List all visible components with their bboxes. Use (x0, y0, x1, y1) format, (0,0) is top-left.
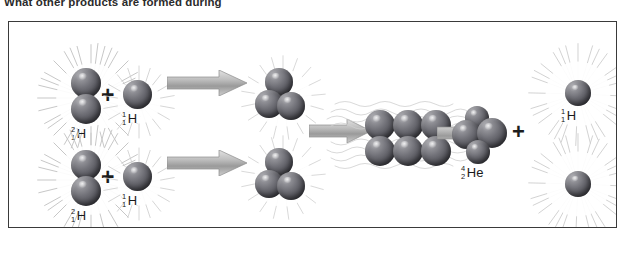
diagram-stage: 2 1 H + (9, 22, 616, 227)
isotope-label-deuterium-top: 2 1 H (71, 126, 86, 141)
nucleon-deuterium-top-b (71, 94, 101, 124)
element-symbol: H (128, 112, 138, 125)
plus-sign-bottom: + (101, 166, 114, 189)
atomic-number: 1 (122, 119, 126, 127)
element-symbol: H (128, 194, 138, 207)
atomic-number: 1 (71, 134, 75, 142)
atomic-number: 1 (71, 216, 75, 224)
atomic-number: 1 (561, 116, 565, 124)
element-symbol: H (567, 109, 577, 122)
element-symbol: He (467, 166, 484, 179)
fusion-diagram-panel: 2 1 H + (8, 21, 617, 228)
atomic-number: 2 (461, 173, 465, 181)
nucleon-fused-4 (365, 136, 395, 166)
nucleon-hydrogen-top (123, 80, 152, 109)
nucleon-helium3-bottom-3 (277, 172, 305, 200)
element-symbol: H (77, 209, 87, 222)
nucleon-product-hydrogen-upper (565, 80, 591, 106)
atomic-number: 1 (122, 201, 126, 209)
nucleon-deuterium-bottom-b (71, 176, 101, 206)
element-symbol: H (77, 127, 87, 140)
nucleon-product-hydrogen-lower (565, 171, 591, 197)
arrow-bottom-reaction (167, 150, 247, 176)
isotope-label-helium4: 4 2 He (461, 165, 484, 180)
nucleon-helium3-top-3 (277, 92, 305, 120)
isotope-label-deuterium-bottom: 2 1 H (71, 208, 86, 223)
nucleon-hydrogen-bottom (123, 162, 152, 191)
nucleon-fused-5 (393, 136, 423, 166)
isotope-label-hydrogen-bottom: 1 1 H (122, 193, 137, 208)
arrow-top-reaction (167, 70, 247, 96)
isotope-label-product-hydrogen-upper: 1 1 H (561, 108, 576, 123)
question-text: What other products are formed during (4, 0, 222, 8)
plus-sign-products: + (512, 121, 525, 143)
nucleon-helium4-4 (466, 140, 490, 164)
arrow-into-fusion (309, 119, 371, 143)
plus-sign-top: + (101, 84, 114, 107)
isotope-label-hydrogen-top: 1 1 H (122, 111, 137, 126)
